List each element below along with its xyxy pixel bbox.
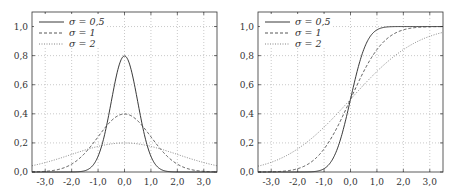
x-tick-label: -3,0	[37, 177, 55, 187]
legend-label: σ = 2	[295, 38, 322, 49]
legend-label: σ = 2	[69, 38, 96, 49]
y-tick-label: 0,0	[240, 167, 255, 177]
legend-label: σ = 0,5	[295, 16, 331, 27]
y-tick-label: 0,2	[14, 138, 28, 148]
x-tick-label: -1,0	[315, 177, 333, 187]
x-tick-label: 1,0	[370, 177, 385, 187]
x-tick-label: 1,0	[144, 177, 159, 187]
y-tick-label: 0,0	[14, 167, 29, 177]
legend-label: σ = 1	[295, 27, 322, 38]
y-tick-label: 0,6	[240, 80, 255, 90]
y-tick-label: 0,2	[240, 138, 254, 148]
cdf-plot: -3,0-2,0-1,00,01,02,03,00,00,20,40,60,81…	[240, 12, 443, 187]
y-tick-label: 1,0	[14, 22, 29, 32]
y-tick-label: 1,0	[240, 22, 255, 32]
x-tick-label: 2,0	[170, 177, 185, 187]
legend-label: σ = 0,5	[69, 16, 105, 27]
x-tick-label: -3,0	[263, 177, 281, 187]
x-tick-label: -1,0	[89, 177, 107, 187]
x-tick-label: 2,0	[396, 177, 411, 187]
y-tick-label: 0,4	[14, 109, 29, 119]
x-tick-label: 3,0	[197, 177, 212, 187]
legend-label: σ = 1	[69, 27, 96, 38]
y-tick-label: 0,6	[14, 80, 29, 90]
y-tick-label: 0,8	[14, 51, 29, 61]
x-tick-label: -2,0	[289, 177, 307, 187]
chart-canvas: -3,0-2,0-1,00,01,02,03,00,00,20,40,60,81…	[0, 0, 455, 196]
x-tick-label: 3,0	[423, 177, 438, 187]
x-tick-label: -2,0	[63, 177, 81, 187]
x-tick-label: 0,0	[343, 177, 358, 187]
y-tick-label: 0,4	[240, 109, 255, 119]
y-tick-label: 0,8	[240, 51, 255, 61]
pdf-plot: -3,0-2,0-1,00,01,02,03,00,00,20,40,60,81…	[14, 12, 217, 187]
x-tick-label: 0,0	[117, 177, 132, 187]
